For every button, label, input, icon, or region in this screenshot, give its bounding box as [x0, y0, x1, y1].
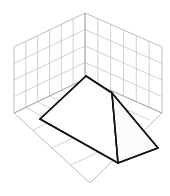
figure-container	[0, 0, 170, 196]
solid-ridged-pyramid	[40, 76, 158, 163]
figure-canvas	[0, 0, 170, 196]
solid-face-right	[112, 93, 158, 163]
